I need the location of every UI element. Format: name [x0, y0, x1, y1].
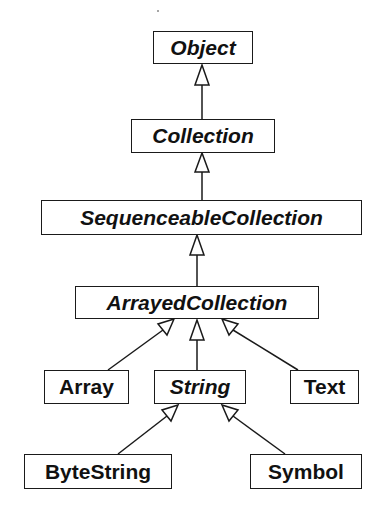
class-label: ByteString — [45, 460, 151, 484]
edge-collection-to-object — [195, 65, 209, 119]
inheritance-arrowhead-icon — [190, 235, 204, 255]
class-hierarchy-diagram: Object Collection SequenceableCollection… — [0, 0, 387, 515]
class-label: String — [170, 375, 231, 399]
class-label: Array — [59, 375, 114, 399]
edge-array-to-arrayed — [108, 319, 174, 370]
class-label: Symbol — [268, 460, 344, 484]
edge-string-to-arrayed — [190, 320, 204, 370]
class-node-object: Object — [153, 31, 253, 64]
class-label: Text — [304, 375, 346, 399]
class-node-text: Text — [290, 370, 359, 404]
inheritance-edges — [0, 0, 387, 515]
inheritance-arrowhead-icon — [195, 65, 209, 85]
class-label: SequenceableCollection — [80, 206, 323, 230]
inheritance-arrowhead-icon — [222, 319, 238, 335]
class-node-arrayed-collection: ArrayedCollection — [75, 286, 319, 319]
class-node-string: String — [154, 370, 246, 404]
scan-speck — [157, 10, 159, 12]
class-label: ArrayedCollection — [107, 291, 288, 315]
class-node-symbol: Symbol — [250, 454, 362, 489]
class-node-sequenceable-collection: SequenceableCollection — [41, 200, 362, 235]
class-label: Collection — [152, 124, 254, 148]
class-label: Object — [170, 36, 235, 60]
edge-text-to-arrayed — [222, 319, 298, 370]
inheritance-arrowhead-icon — [190, 320, 204, 340]
class-node-collection: Collection — [131, 119, 275, 153]
edge-sequenceable-to-collection — [195, 153, 209, 200]
inheritance-arrowhead-icon — [195, 153, 209, 172]
edge-bytestring-to-string — [118, 405, 178, 454]
class-node-bytestring: ByteString — [24, 454, 172, 489]
edge-arrayed-to-sequenceable — [190, 235, 204, 286]
edge-symbol-to-string — [222, 405, 285, 454]
class-node-array: Array — [44, 370, 129, 404]
